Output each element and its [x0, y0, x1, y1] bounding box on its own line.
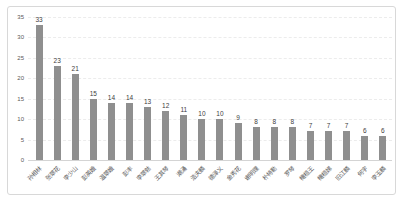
bar-group: 13 — [139, 7, 157, 160]
bar — [379, 136, 386, 161]
bar — [144, 107, 151, 160]
x-category-label: 彭丰 — [121, 165, 134, 178]
bar-group: 12 — [157, 7, 175, 160]
bar-group: 14 — [102, 7, 120, 160]
bar — [325, 131, 332, 160]
y-tick-label: 30 — [10, 34, 24, 40]
bar-group: 8 — [265, 7, 283, 160]
x-axis-labels: 孙相林张翠花李少山彭英娥温翠娥彭丰李翠勃王其琴潮涌浩夫麟德泽义金秀花谢明理朴特勒… — [30, 160, 392, 194]
x-category-label: 何宇 — [356, 165, 369, 178]
bar-group: 23 — [48, 7, 66, 160]
bar — [289, 127, 296, 160]
bar — [180, 115, 187, 160]
x-category-slot: 朴特勒 — [265, 160, 283, 194]
bar — [126, 103, 133, 160]
bar — [90, 99, 97, 160]
bar — [108, 103, 115, 160]
bar — [162, 111, 169, 160]
bar — [253, 127, 260, 160]
bar — [72, 74, 79, 160]
y-tick-label: 5 — [10, 137, 24, 143]
bar-group: 33 — [30, 7, 48, 160]
bar-group: 8 — [283, 7, 301, 160]
x-category-label: 罗琴 — [284, 165, 297, 178]
bar-value-label: 6 — [368, 127, 398, 134]
bar-group: 10 — [211, 7, 229, 160]
bar — [36, 25, 43, 160]
bar — [343, 131, 350, 160]
bar — [361, 136, 368, 161]
bar — [216, 119, 223, 160]
y-tick-label: 10 — [10, 116, 24, 122]
bar — [198, 119, 205, 160]
plot-area: 3323211514141312111010988877766 — [30, 7, 392, 160]
y-tick-label: 25 — [10, 55, 24, 61]
bar-group: 6 — [356, 7, 374, 160]
bar-group: 8 — [247, 7, 265, 160]
bar-group: 15 — [84, 7, 102, 160]
bar-group: 7 — [301, 7, 319, 160]
bar-group: 6 — [374, 7, 392, 160]
bar — [307, 131, 314, 160]
x-category-slot: 旧江麟 — [338, 160, 356, 194]
bar — [235, 123, 242, 160]
y-tick-label: 0 — [10, 157, 24, 163]
bar-group: 10 — [193, 7, 211, 160]
y-tick-label: 15 — [10, 96, 24, 102]
x-category-slot: 温翠娥 — [102, 160, 120, 194]
bar-chart-frame: 05101520253035 3323211514141312111010988… — [7, 6, 396, 195]
bar-group: 21 — [66, 7, 84, 160]
bar-group: 11 — [175, 7, 193, 160]
bar — [271, 127, 278, 160]
x-category-label: 孙相林 — [26, 165, 43, 182]
bar-group: 9 — [229, 7, 247, 160]
bar-group: 7 — [320, 7, 338, 160]
bar-group: 7 — [338, 7, 356, 160]
y-tick-label: 35 — [10, 14, 24, 20]
x-category-slot: 李玉麟 — [374, 160, 392, 194]
bar — [54, 66, 61, 160]
y-tick-label: 20 — [10, 75, 24, 81]
bar-group: 14 — [120, 7, 138, 160]
x-category-label: 潮涌 — [175, 165, 188, 178]
x-category-slot: 王其琴 — [157, 160, 175, 194]
